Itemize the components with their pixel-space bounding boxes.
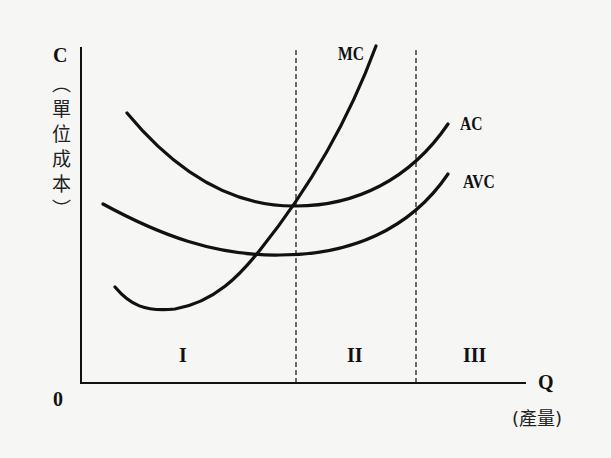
y-axis-label-char: 本 [50,172,72,197]
y-axis-label-char: 單 [50,97,72,122]
ac-label: AC [460,114,483,133]
ac-curve [127,113,448,206]
y-axis-label-char: 位 [50,122,72,147]
mc-label: MC [338,44,364,63]
avc-curve [103,174,448,255]
region-label-2: II [347,345,363,365]
x-axis-label: (產量) [512,410,562,428]
diagram-graphics [0,0,611,458]
y-axis-label-char: 成 [50,147,72,172]
y-axis-label-char: ︵ [50,72,72,97]
region-label-1: I [179,345,187,365]
cost-curves-diagram: C ︵ 單 位 成 本 ︶ 0 Q (產量) MC AC AVC I II II… [0,0,611,458]
avc-label: AVC [463,172,495,191]
x-axis-letter: Q [538,372,554,392]
origin-label: 0 [53,389,63,409]
mc-curve [115,46,376,310]
y-axis-letter: C [53,45,67,65]
region-label-3: III [463,345,486,365]
y-axis-label-char: ︶ [50,197,72,222]
y-axis-label: ︵ 單 位 成 本 ︶ [50,72,72,222]
